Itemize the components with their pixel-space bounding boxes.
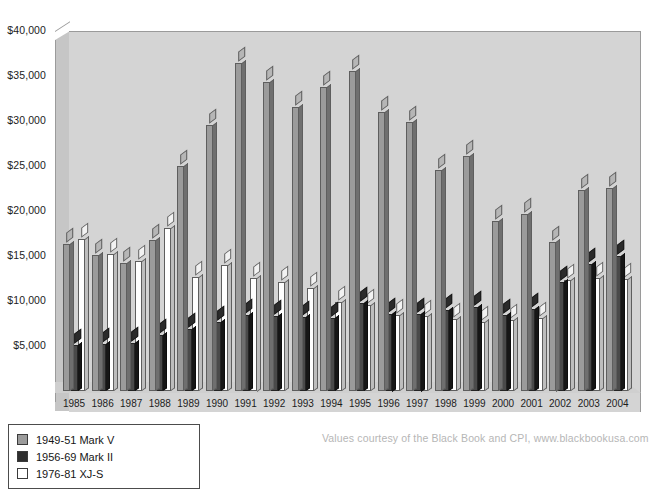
bar-side-face	[413, 119, 417, 391]
bar-top-face	[617, 239, 624, 254]
bar-side-face	[213, 122, 217, 390]
y-axis-tick-label: $20,000	[7, 204, 46, 216]
bar-side-face	[99, 252, 103, 391]
bar-side-face	[327, 84, 331, 391]
bar-2003-series0	[578, 181, 585, 391]
bar-side-face	[499, 218, 503, 391]
bar-layer	[55, 22, 640, 394]
legend-item: 1949-51 Mark V	[17, 431, 191, 448]
bar-top-face	[310, 272, 317, 287]
bar-top-face	[588, 248, 595, 263]
x-axis-tick-label: 2002	[546, 398, 574, 409]
bar-side-face	[628, 276, 632, 391]
y-axis-tick-label: $25,000	[7, 159, 46, 171]
bar-top-face	[596, 262, 603, 277]
bar-top-face	[482, 305, 489, 320]
bar-front-face	[606, 188, 613, 391]
bar-front-face	[521, 214, 528, 391]
bar-side-face	[478, 304, 482, 391]
bar-side-face	[285, 279, 289, 391]
bar-1986-series0	[92, 246, 99, 391]
bar-top-face	[467, 140, 474, 155]
y-axis: $5,000$10,000$15,000$20,000$25,000$30,00…	[0, 0, 52, 477]
x-axis-tick-label: 2000	[489, 398, 517, 409]
bar-front-face	[92, 255, 99, 391]
x-axis-tick-label: 1997	[403, 398, 431, 409]
bar-top-face	[324, 70, 331, 85]
bar-side-face	[78, 342, 82, 391]
bar-side-face	[221, 319, 225, 391]
bar-top-face	[531, 293, 538, 308]
bar-top-face	[409, 105, 416, 120]
bar-side-face	[70, 241, 74, 391]
bar-top-face	[81, 222, 88, 237]
bar-front-face	[149, 240, 156, 391]
x-axis-tick-label: 1994	[317, 398, 345, 409]
bar-side-face	[356, 68, 360, 390]
plot-area	[55, 22, 640, 394]
bar-side-face	[163, 332, 167, 391]
bar-front-face	[120, 263, 127, 391]
bar-1988-series0	[149, 231, 156, 391]
y-axis-tick-label: $5,000	[13, 339, 46, 351]
bar-2001-series0	[521, 205, 528, 391]
bar-top-face	[339, 285, 346, 300]
bar-1985-series0	[63, 235, 70, 391]
bar-side-face	[142, 258, 146, 391]
bar-side-face	[242, 60, 246, 391]
legend-swatch-icon	[17, 434, 28, 445]
bar-1991-series0	[235, 54, 242, 391]
bar-side-face	[514, 317, 518, 391]
bar-front-face	[463, 156, 470, 391]
bar-top-face	[224, 248, 231, 263]
legend-label: 1949-51 Mark V	[36, 434, 114, 446]
x-axis-tick-label: 1993	[289, 398, 317, 409]
y-axis-tick-label: $35,000	[7, 69, 46, 81]
bar-top-face	[495, 204, 502, 219]
bar-side-face	[385, 109, 389, 391]
x-axis-tick-label: 1991	[232, 398, 260, 409]
bar-top-face	[196, 260, 203, 275]
bar-top-face	[66, 228, 73, 243]
bar-top-face	[295, 91, 302, 106]
bar-side-face	[528, 211, 532, 391]
x-axis-tick-label: 1990	[203, 398, 231, 409]
bar-top-face	[167, 212, 174, 227]
bar-side-face	[543, 315, 547, 391]
bar-top-face	[552, 225, 559, 240]
bar-side-face	[585, 187, 589, 391]
x-axis-tick-label: 2003	[575, 398, 603, 409]
bar-top-face	[181, 149, 188, 164]
bar-side-face	[449, 307, 453, 391]
bar-top-face	[281, 266, 288, 281]
bar-side-face	[613, 185, 617, 390]
y-axis-tick-label: $15,000	[7, 249, 46, 261]
bar-1999-series0	[463, 147, 470, 391]
y-axis-tick-label: $30,000	[7, 114, 46, 126]
bar-side-face	[306, 314, 310, 391]
bar-side-face	[400, 312, 404, 391]
x-axis-tick-label: 2004	[603, 398, 631, 409]
bar-top-face	[438, 154, 445, 169]
x-axis-tick-label: 1996	[375, 398, 403, 409]
bar-top-face	[474, 291, 481, 306]
bar-side-face	[257, 275, 261, 391]
bar-side-face	[556, 239, 560, 391]
bar-side-face	[270, 79, 274, 391]
legend-item: 1976-81 XJ-S	[17, 465, 191, 482]
bar-1987-series0	[120, 254, 127, 391]
bar-top-face	[510, 303, 517, 318]
bar-1998-series0	[435, 161, 442, 391]
bar-side-face	[299, 104, 303, 390]
bar-side-face	[392, 311, 396, 391]
bar-front-face	[177, 166, 184, 391]
y-axis-tick-label: $10,000	[7, 294, 46, 306]
bar-1992-series0	[263, 73, 270, 391]
bar-side-face	[314, 285, 318, 391]
bar-front-face	[292, 107, 299, 391]
bar-side-face	[571, 277, 575, 391]
bar-side-face	[192, 326, 196, 391]
x-axis-tick-label: 1992	[260, 398, 288, 409]
bar-front-face	[235, 63, 242, 391]
x-axis: 1985198619871988198919901991199219931994…	[55, 398, 646, 414]
